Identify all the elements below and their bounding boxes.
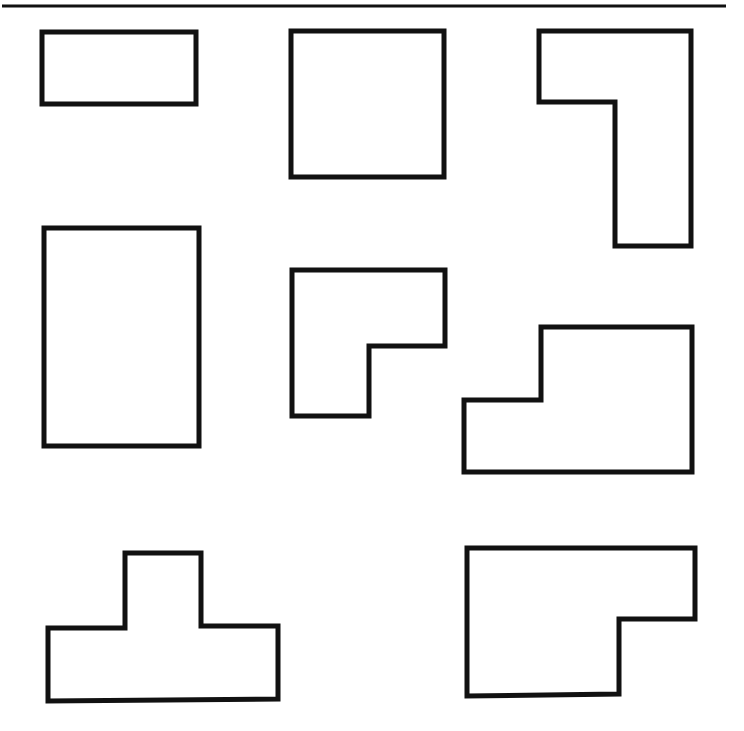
step-shape <box>464 327 692 472</box>
t-shape <box>48 553 278 701</box>
wide-rectangle <box>42 32 196 104</box>
tall-rectangle <box>44 228 199 446</box>
l-shape-wide <box>467 548 695 696</box>
l-shape-tall <box>539 31 691 246</box>
diagram-canvas <box>0 0 744 731</box>
l-shape-small <box>292 270 445 416</box>
square <box>291 31 444 177</box>
